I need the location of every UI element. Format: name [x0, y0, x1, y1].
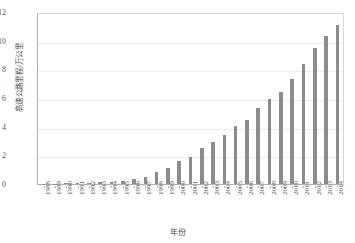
bar — [223, 135, 227, 184]
x-tick-slot: 1988 — [38, 186, 49, 226]
y-axis-tick-label: 0 — [0, 180, 6, 189]
bar-slot — [49, 14, 60, 184]
x-tick-slot: 2011 — [298, 186, 309, 226]
x-tick-slot: 1993 — [94, 186, 105, 226]
bar-series — [38, 14, 343, 184]
x-tick-slot: 1991 — [72, 186, 83, 226]
x-tick-slot: 2012 — [309, 186, 320, 226]
bar-slot — [128, 14, 139, 184]
x-tick-slot: 1998 — [151, 186, 162, 226]
bar-slot — [106, 14, 117, 184]
bar-slot — [275, 14, 286, 184]
x-tick-slot: 2013 — [320, 186, 331, 226]
x-axis-title: 年份 — [0, 226, 355, 237]
bar-slot — [264, 14, 275, 184]
bar — [268, 99, 272, 184]
x-axis-tick-labels: 1988198919901991199219931994199519961997… — [38, 186, 343, 226]
bar-slot — [140, 14, 151, 184]
bar-slot — [72, 14, 83, 184]
x-tick-slot: 2008 — [264, 186, 275, 226]
x-tick-slot: 2010 — [287, 186, 298, 226]
x-tick-slot: 2014 — [332, 186, 343, 226]
bar-slot — [38, 14, 49, 184]
bar-slot — [241, 14, 252, 184]
bar-slot — [196, 14, 207, 184]
bar-slot — [83, 14, 94, 184]
bar-slot — [151, 14, 162, 184]
x-tick-slot: 1990 — [61, 186, 72, 226]
x-tick-slot: 2006 — [241, 186, 252, 226]
x-tick-slot: 1996 — [128, 186, 139, 226]
bar-slot — [253, 14, 264, 184]
bar — [313, 48, 317, 184]
bar-slot — [207, 14, 218, 184]
x-tick-slot: 2004 — [219, 186, 230, 226]
y-axis-tick-label: 2 — [0, 151, 6, 160]
bar-slot — [162, 14, 173, 184]
bar — [211, 142, 215, 184]
x-tick-slot: 1994 — [106, 186, 117, 226]
bar-slot — [332, 14, 343, 184]
x-tick-slot: 2000 — [174, 186, 185, 226]
bar-slot — [94, 14, 105, 184]
bar — [256, 108, 260, 184]
bar — [336, 25, 340, 184]
bar — [302, 64, 306, 184]
bar — [279, 92, 283, 184]
bar-slot — [320, 14, 331, 184]
x-tick-slot: 2007 — [253, 186, 264, 226]
x-axis-tick-label: 2014 — [337, 181, 345, 195]
bar — [290, 79, 294, 184]
bar-chart: 高速公路里程/万公里 121086420 1988198919901991199… — [0, 0, 355, 243]
bar-slot — [174, 14, 185, 184]
bar-slot — [309, 14, 320, 184]
x-tick-slot: 2003 — [207, 186, 218, 226]
x-tick-slot: 1999 — [162, 186, 173, 226]
bar-slot — [117, 14, 128, 184]
bar — [189, 157, 193, 184]
bar-slot — [230, 14, 241, 184]
bar-slot — [185, 14, 196, 184]
bar-slot — [287, 14, 298, 184]
x-tick-slot: 1992 — [83, 186, 94, 226]
y-axis-tick-label: 10 — [0, 37, 6, 46]
x-tick-slot: 2005 — [230, 186, 241, 226]
bar-slot — [219, 14, 230, 184]
x-tick-slot: 2001 — [185, 186, 196, 226]
bar — [200, 148, 204, 184]
x-tick-slot: 2009 — [275, 186, 286, 226]
y-axis-tick-label: 4 — [0, 123, 6, 132]
x-tick-slot: 1989 — [49, 186, 60, 226]
y-axis-tick-label: 8 — [0, 65, 6, 74]
bar — [234, 126, 238, 184]
bar — [245, 120, 249, 184]
bar-slot — [298, 14, 309, 184]
x-tick-slot: 1997 — [140, 186, 151, 226]
y-axis-tick-label: 6 — [0, 94, 6, 103]
x-tick-slot: 1995 — [117, 186, 128, 226]
y-axis-title: 高速公路里程/万公里 — [13, 8, 24, 148]
x-tick-slot: 2002 — [196, 186, 207, 226]
bar — [324, 36, 328, 184]
y-axis-tick-label: 12 — [0, 8, 6, 17]
bar-slot — [61, 14, 72, 184]
